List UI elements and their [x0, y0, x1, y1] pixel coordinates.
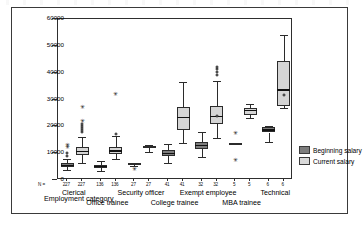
whisker-cap-upper [164, 144, 172, 145]
n-count-value: 32 [194, 182, 208, 187]
legend-swatch-beginning-salary [299, 146, 310, 154]
x-axis-tick [283, 179, 284, 181]
outlier-extreme: ✳ [233, 132, 238, 138]
outlier-extreme: ✳ [132, 167, 137, 173]
whisker-cap-lower [198, 157, 206, 158]
page-edge-artifact [0, 0, 363, 5]
whisker-cap-upper [97, 161, 105, 162]
whisker-upper [217, 81, 218, 106]
x-axis-tick [234, 179, 235, 181]
x-axis-category-label: College trainee [141, 199, 209, 207]
x-axis-category-label: Security officer [107, 189, 175, 197]
legend-swatch-current-salary [299, 157, 310, 165]
whisker-upper [82, 137, 83, 147]
whisker-cap-upper [78, 137, 86, 138]
whisker-upper [202, 132, 203, 142]
y-axis-tick-label: 60000 [24, 15, 64, 21]
n-count-value: 5 [227, 182, 241, 187]
y-axis-tick [52, 45, 57, 46]
box-flat [229, 143, 242, 145]
n-count-value: 27 [141, 182, 155, 187]
legend-item-beginning-salary: Beginning salary [299, 146, 362, 154]
median-line [162, 153, 175, 155]
n-count-value: 136 [108, 182, 122, 187]
outlier-extreme: ✳ [233, 158, 238, 164]
outlier-extreme: ✳ [65, 143, 70, 149]
whisker-upper [116, 136, 117, 147]
whisker-cap-lower [78, 163, 86, 164]
n-count-value: 6 [276, 182, 290, 187]
whisker-cap-lower [63, 170, 71, 171]
median-line [94, 166, 107, 168]
median-line [244, 110, 257, 112]
x-axis-tick [133, 179, 134, 181]
x-axis-tick [66, 179, 67, 181]
median-line [109, 150, 122, 152]
n-count-value: 5 [242, 182, 256, 187]
whisker-lower [269, 133, 270, 143]
x-axis-tick [201, 179, 202, 181]
y-axis-tick-label: 40000 [24, 69, 64, 75]
whisker-cap-lower [145, 152, 153, 153]
n-count-value: 41 [160, 182, 174, 187]
y-axis-tick [52, 179, 57, 180]
x-axis-tick [115, 179, 116, 181]
median-line [195, 145, 208, 147]
whisker-upper [284, 35, 285, 61]
median-line [262, 129, 275, 131]
n-count-value: 27 [126, 182, 140, 187]
whisker-cap-upper [280, 35, 288, 36]
y-axis-tick [52, 18, 57, 19]
figure-page: ✳✳✳✳✳✳✳✳ 0100002000030000400005000060000… [0, 0, 363, 244]
whisker-lower [168, 156, 169, 163]
box-flat [143, 146, 156, 148]
whisker-lower [183, 130, 184, 143]
x-axis-category-label: Exempt employee [174, 189, 242, 197]
outlier-mild [114, 132, 117, 135]
x-axis-title: Employment category [44, 194, 114, 203]
legend-label-current-salary: Current salary [313, 158, 354, 165]
n-count-value: 136 [93, 182, 107, 187]
n-count-value: 41 [175, 182, 189, 187]
whisker-cap-lower [112, 159, 120, 160]
whisker-cap-lower [265, 142, 273, 143]
median-line [76, 151, 89, 153]
outlier-mild [215, 66, 218, 69]
x-axis-tick [81, 179, 82, 181]
outlier-mild [282, 93, 285, 96]
n-count-value: 6 [261, 182, 275, 187]
n-count-value: 32 [209, 182, 223, 187]
whisker-cap-lower [164, 163, 172, 164]
whisker-cap-lower [97, 171, 105, 172]
y-axis-tick [52, 99, 57, 100]
whisker-lower [202, 149, 203, 157]
median-line [61, 165, 74, 167]
box-light [177, 107, 190, 130]
n-count-value: 227 [74, 182, 88, 187]
outlier-mild [66, 151, 69, 154]
whisker-cap-upper [179, 82, 187, 83]
plot-area: ✳✳✳✳✳✳✳✳ [57, 18, 292, 179]
x-axis-tick [268, 179, 269, 181]
x-axis-tick [249, 179, 250, 181]
whisker-cap-lower [246, 118, 254, 119]
n-count-value: 227 [59, 182, 73, 187]
whisker-cap-upper [198, 132, 206, 133]
y-axis-tick-label: 10000 [24, 149, 64, 155]
whisker-cap-lower [213, 138, 221, 139]
x-axis-tick [148, 179, 149, 181]
outlier-mild [215, 71, 218, 74]
outlier-mild [215, 114, 218, 117]
whisker-cap-lower [280, 108, 288, 109]
whisker-lower [217, 124, 218, 138]
median-line [277, 89, 290, 91]
whisker-cap-upper [246, 104, 254, 105]
whisker-cap-lower [179, 143, 187, 144]
x-axis-tick [100, 179, 101, 181]
whisker-lower [82, 155, 83, 163]
outlier-extreme: ✳ [80, 120, 85, 126]
n-row-label: N = [38, 182, 45, 187]
x-axis-category-label: Technical [241, 189, 309, 197]
whisker-upper [183, 82, 184, 107]
box-flat [128, 163, 141, 165]
